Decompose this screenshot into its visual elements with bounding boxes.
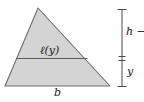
upper-segment-label: h − y [126, 26, 144, 37]
chord-length-label: ℓ(y) [40, 45, 59, 56]
lower-segment-label: y [127, 66, 133, 77]
base-length-label: b [54, 87, 61, 98]
geometry-figure: ℓ(y) b h − y y [0, 0, 144, 102]
figure-canvas [0, 0, 144, 102]
